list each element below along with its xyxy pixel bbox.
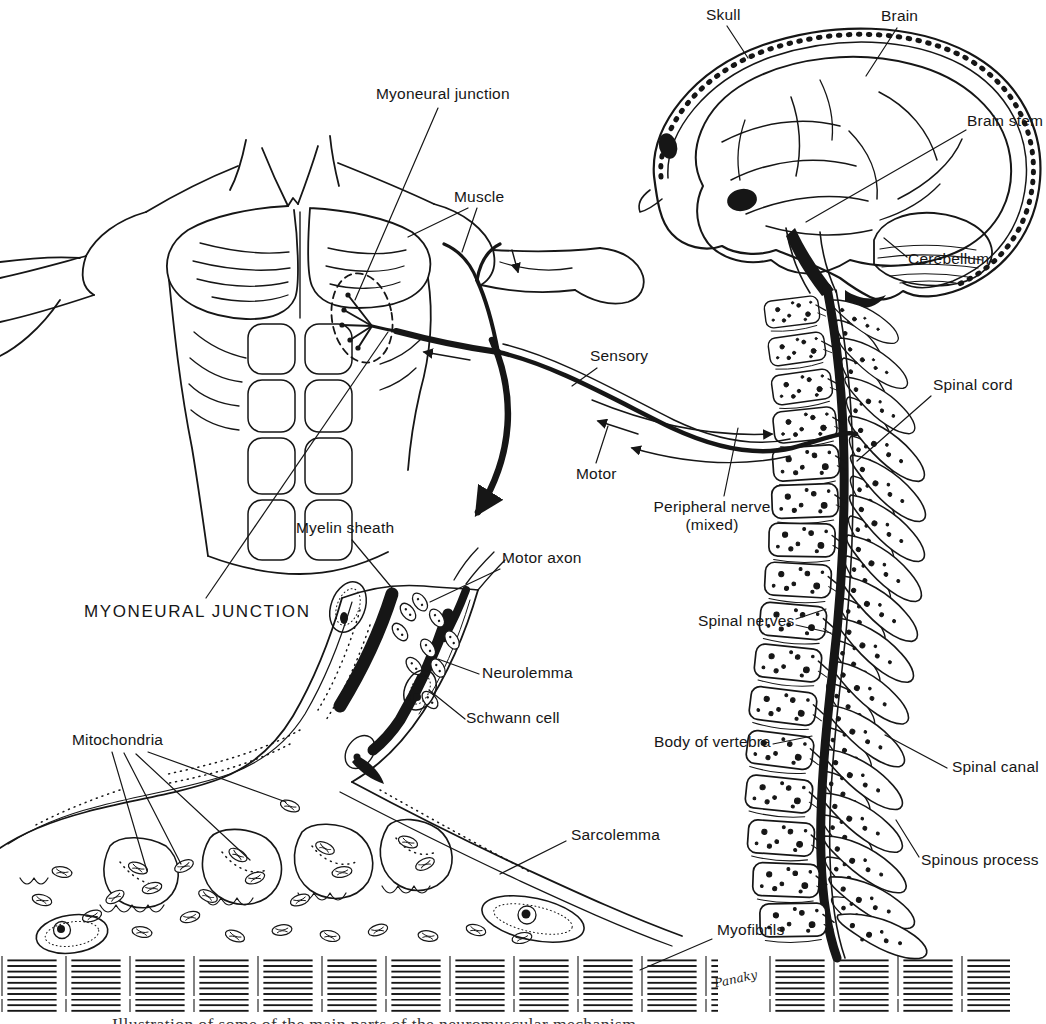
diagram-artwork [0, 0, 1046, 1024]
muscle-leader-1 [408, 208, 468, 237]
terminal-boutons [104, 820, 452, 908]
label-body-of-vertebra: Body of vertebra [654, 733, 771, 751]
label-myelin-sheath: Myelin sheath [296, 519, 394, 537]
motor-axon-fibers [389, 590, 462, 711]
label-brain: Brain [881, 7, 918, 25]
label-spinal-canal: Spinal canal [952, 758, 1039, 776]
motor-leader [596, 426, 608, 463]
label-myofibrils: Myofibrils [717, 921, 784, 939]
muscle-leader-2 [462, 208, 477, 252]
label-brain-stem: Brain stem [967, 112, 1043, 130]
label-schwann-cell: Schwann cell [466, 709, 560, 727]
myofibrils-striations [0, 956, 1010, 1012]
label-peripheral-nerve-line1: Peripheral nerve [642, 498, 782, 516]
label-spinous-process: Spinous process [921, 851, 1039, 869]
label-motor: Motor [576, 465, 617, 483]
junctional-folds [20, 878, 430, 912]
myoneural-junction-leader [355, 108, 438, 300]
label-spinal-nerves: Spinal nerves [698, 612, 795, 630]
label-sensory: Sensory [590, 347, 648, 365]
label-peripheral-nerve: Peripheral nerve (mixed) [642, 498, 782, 534]
sarcolemma-membrane [340, 782, 682, 946]
sensory-direction-arrow [592, 400, 772, 434]
mitochondria-leader-1 [112, 752, 147, 871]
label-muscle: Muscle [454, 188, 504, 206]
label-neurolemma: Neurolemma [482, 664, 573, 682]
myoneural-junction-caps-leader [206, 332, 388, 598]
sarcolemma-leader [500, 841, 566, 874]
zoom-arrow [478, 340, 508, 512]
label-mitochondria: Mitochondria [72, 731, 163, 749]
label-spinal-cord: Spinal cord [933, 376, 1013, 394]
label-myoneural-junction-caps: MYONEURAL JUNCTION [84, 602, 311, 622]
mitochondria-leader-3 [136, 754, 250, 860]
brain-stem-leader [806, 130, 966, 222]
skull-leader [727, 26, 748, 58]
label-sarcolemma: Sarcolemma [571, 826, 660, 844]
label-skull: Skull [706, 6, 741, 24]
mitochondria-leader-4 [148, 752, 286, 802]
label-cerebellum: Cerebellum [908, 250, 989, 268]
label-motor-axon: Motor axon [502, 549, 582, 567]
anatomy-figure: Skull Brain Brain stem Cerebellum Myoneu… [0, 0, 1046, 1024]
label-peripheral-nerve-line2: (mixed) [642, 516, 782, 534]
label-myoneural-junction: Myoneural junction [376, 85, 510, 103]
torso-illustration [0, 136, 644, 574]
caption-clipped: Illustration of some of the main parts o… [112, 1014, 942, 1024]
